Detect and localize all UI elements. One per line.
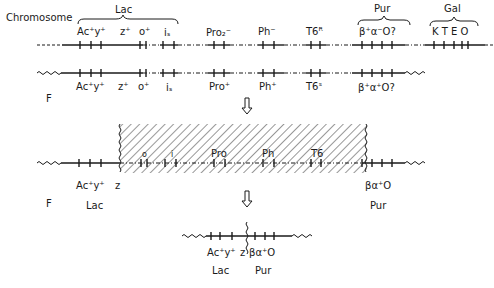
- gal-group-label: Gal: [444, 3, 461, 14]
- pur-brace: [358, 16, 410, 25]
- ph-label: Ph: [262, 148, 274, 159]
- down-arrow-icon: [242, 191, 252, 207]
- ac-y-label: Ac⁺y⁺: [76, 81, 105, 92]
- wavy-end-right: [405, 162, 425, 165]
- chromosome-label: Chromosome: [6, 12, 72, 23]
- ac-y-label: Ac⁺y⁺: [77, 26, 106, 37]
- f-label: F: [46, 198, 52, 209]
- f-episome-row: F Ac⁺y⁺ z⁺ o⁺ iₛ Pro⁺ Ph⁺ T6ˢ β⁺α⁺O?: [37, 69, 425, 104]
- chromosome-row: Chromosome Lac Pur Gal Ac⁺y⁺ z⁺ o⁺ iₛ Pr…: [6, 3, 494, 49]
- pur-label: Pur: [370, 200, 387, 211]
- ph-label: Ph⁺: [259, 81, 277, 92]
- pur-genes-label: βα⁺O: [365, 180, 391, 191]
- deleted-region: [120, 124, 367, 173]
- deletion-row: o i Pro Ph T6 Ac⁺y⁺ z βα⁺O F Lac Pur: [37, 124, 425, 211]
- gal-brace: [430, 17, 478, 26]
- wavy-end-left: [37, 162, 61, 165]
- o-label: o: [142, 150, 147, 159]
- down-arrow-icon: [242, 98, 252, 114]
- ph-label: Ph⁻: [258, 26, 276, 37]
- z-label: z: [115, 180, 120, 191]
- pur-genes-label: βα⁺O: [249, 247, 275, 258]
- z-label: z⁺: [118, 81, 129, 92]
- o-label: o⁺: [138, 81, 149, 92]
- gal-genes-label: K T E O: [432, 26, 469, 37]
- ac-y-label: Ac⁺y⁺: [207, 247, 236, 258]
- pur-group-label: Pur: [374, 3, 391, 14]
- pro-label: Pro₂⁻: [206, 27, 231, 38]
- lac-brace: [78, 15, 178, 24]
- lac-group-label: Lac: [115, 4, 132, 15]
- f-label: F: [46, 93, 52, 104]
- pro-label: Pro⁺: [209, 81, 230, 92]
- t6-label: T6: [310, 148, 323, 159]
- pur-genes-label: β⁺α⁻O?: [359, 26, 396, 37]
- ac-y-label: Ac⁺y⁺: [76, 180, 105, 191]
- wavy-end-left: [37, 72, 61, 75]
- wavy-end-right: [405, 72, 425, 75]
- z-label: z⁺: [120, 26, 131, 37]
- z-label: z: [240, 247, 245, 258]
- pro-label: Pro: [211, 148, 227, 159]
- pur-label: Pur: [255, 265, 272, 276]
- wavy-end-left: [182, 235, 206, 238]
- o-label: o⁺: [139, 26, 150, 37]
- fusion-junction: [246, 222, 248, 254]
- result-row: Ac⁺y⁺ z βα⁺O Lac Pur: [182, 222, 312, 276]
- i-label: i: [171, 150, 173, 159]
- i-label: iₛ: [166, 82, 173, 93]
- lac-label: Lac: [86, 200, 103, 211]
- lac-label: Lac: [212, 265, 229, 276]
- t6-label: T6ˢ: [305, 81, 322, 92]
- f-prime-deletion-diagram: Chromosome Lac Pur Gal Ac⁺y⁺ z⁺ o⁺ iₛ Pr…: [0, 0, 494, 288]
- wavy-end-right: [292, 235, 312, 238]
- pur-genes-label: β⁺α⁺O?: [358, 82, 395, 93]
- t6-label: T6ᴿ: [305, 26, 323, 37]
- i-label: iₛ: [164, 27, 171, 38]
